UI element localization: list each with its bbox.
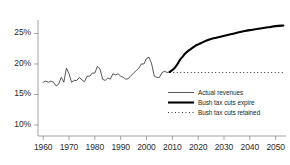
y-axis-tick-label: 15%: [5, 89, 31, 98]
x-axis-tick-label: 2050: [261, 143, 290, 152]
legend-swatch-thin-line: [168, 88, 194, 97]
chart-series-group: [43, 25, 283, 85]
legend-item-actual-revenues: Actual revenues: [168, 88, 286, 97]
legend-item-bush-tax-cuts-expire: Bush tax cuts expire: [168, 98, 286, 107]
chart-canvas: [0, 0, 290, 165]
legend-label-actual-revenues: Actual revenues: [198, 88, 243, 97]
y-axis-tick-label: 10%: [5, 120, 31, 129]
y-axis-tick-label: 20%: [5, 59, 31, 68]
chart-axes: [38, 20, 286, 136]
legend-label-bush-tax-cuts-retained: Bush tax cuts retained: [198, 108, 260, 117]
chart-legend: Actual revenues Bush tax cuts expire Bus…: [168, 88, 286, 118]
legend-label-bush-tax-cuts-expire: Bush tax cuts expire: [198, 98, 255, 107]
y-axis-tick-marks: [34, 33, 38, 125]
legend-swatch-dotted-line: [168, 108, 194, 117]
legend-item-bush-tax-cuts-retained: Bush tax cuts retained: [168, 108, 286, 117]
y-axis-tick-label: 25%: [5, 28, 31, 37]
series-line-actual-revenues: [43, 57, 170, 86]
revenue-projection-chart: 25%20%15%10% 196019701980199020002010202…: [0, 0, 290, 165]
series-line-bush-tax-cuts-expire: [170, 25, 284, 71]
x-axis-tick-marks: [43, 136, 275, 140]
legend-swatch-thick-line: [168, 98, 194, 107]
